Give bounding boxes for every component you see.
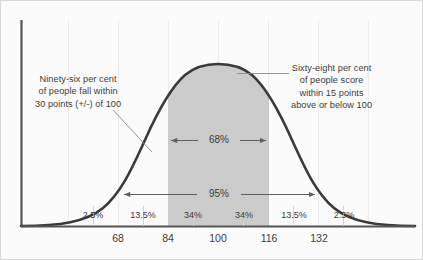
bell-curve-figure: Ninety-six per cent of people fall withi…	[0, 0, 423, 260]
annotation-right-line-4: above or below 100	[291, 99, 372, 111]
band-label-3: 34%	[168, 210, 218, 220]
x-tick-label-116: 116	[249, 232, 289, 244]
x-tick-label-100: 100	[198, 232, 238, 244]
annotation-right: Sixty-eight per cent of people score wit…	[291, 62, 372, 111]
distribution-chart	[0, 0, 423, 260]
band-label-1: 2.5%	[68, 210, 118, 220]
x-tick-label-68: 68	[98, 232, 138, 244]
annotation-left-line-2: of people fall within	[35, 85, 121, 97]
band-label-5: 13.5%	[269, 210, 319, 220]
span-label-68: 68%	[198, 134, 240, 145]
band-label-2: 13.5%	[118, 210, 168, 220]
annotation-right-line-2: of people score	[291, 74, 372, 86]
x-tick-label-132: 132	[299, 232, 339, 244]
span-label-95: 95%	[197, 188, 241, 199]
band-label-6: 2.5%	[319, 210, 369, 220]
annotation-left-line-3: 30 points (+/-) of 100	[35, 98, 121, 110]
annotation-right-line-3: within 15 points	[291, 87, 372, 99]
x-tick-label-84: 84	[148, 232, 188, 244]
annotation-left: Ninety-six per cent of people fall withi…	[35, 73, 121, 110]
annotation-right-line-1: Sixty-eight per cent	[291, 62, 372, 74]
annotation-left-line-1: Ninety-six per cent	[35, 73, 121, 85]
band-label-4: 34%	[219, 210, 269, 220]
